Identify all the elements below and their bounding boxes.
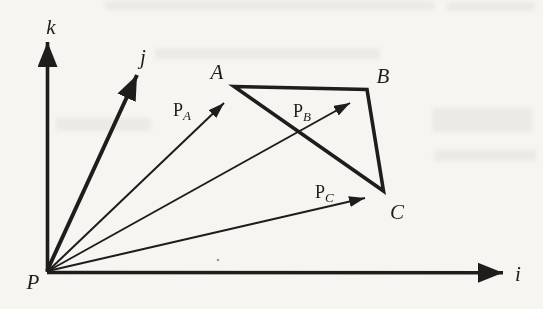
j-vector-label: j [137,45,146,69]
scanned-page: k j i P A B C PA PB PC [0,0,543,309]
pa-label: PA [173,100,191,123]
j-vector-arrow [47,75,137,271]
i-axis-label: i [515,262,521,286]
triangle-abc [234,87,384,192]
vector-diagram: k j i P A B C PA PB PC [0,0,543,309]
origin-label: P [26,270,40,294]
vertex-c-label: C [390,200,405,224]
position-vector-pc-arrow [48,198,365,271]
pb-label: PB [293,101,311,124]
pc-label: PC [315,182,334,205]
k-axis-label: k [46,15,56,39]
vertex-a-label: A [209,60,224,84]
scan-speck [217,259,220,262]
vertex-b-label: B [377,64,390,88]
bleedthrough-smudges [56,1,536,161]
